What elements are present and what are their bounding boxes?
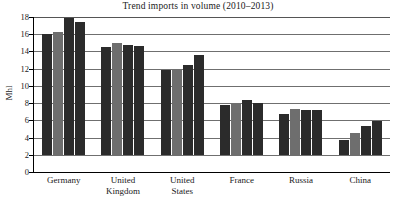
bar: [242, 100, 252, 155]
y-tick-label: 12: [21, 64, 30, 73]
bar: [172, 69, 182, 155]
bar: [161, 70, 171, 155]
bar-group: [34, 0, 93, 155]
x-axis-label: France: [212, 175, 271, 186]
bar: [53, 32, 63, 155]
x-axis-label: Germany: [34, 175, 93, 186]
bar: [101, 47, 111, 156]
bar: [372, 121, 382, 155]
y-tick-label: 10: [21, 82, 30, 91]
x-axis-label: Russia: [271, 175, 330, 186]
y-tick-label: 18: [21, 13, 30, 22]
x-axis-line: [33, 172, 390, 173]
bar-group: [271, 0, 330, 155]
bar: [183, 65, 193, 155]
x-axis-label: UnitedStates: [153, 175, 212, 197]
y-axis-ticks: 024681012141618: [0, 0, 33, 173]
bar: [134, 46, 144, 155]
bar: [361, 126, 371, 155]
y-tick-label: 14: [21, 47, 30, 56]
bar-groups: [34, 0, 390, 155]
y-tick-label: 16: [21, 30, 30, 39]
bar: [42, 34, 52, 155]
bar: [231, 104, 241, 155]
bar: [123, 45, 133, 155]
x-axis-labels: GermanyUnitedKingdomUnitedStatesFranceRu…: [34, 175, 390, 207]
bar: [194, 55, 204, 155]
bar: [350, 133, 360, 155]
x-axis-label: China: [331, 175, 390, 186]
bar-group: [331, 0, 390, 155]
bar: [279, 114, 289, 155]
bar: [339, 140, 349, 156]
bar: [253, 103, 263, 155]
x-axis-label: UnitedKingdom: [93, 175, 152, 197]
bar: [112, 43, 122, 155]
bar-group: [212, 0, 271, 155]
chart-figure: Trend imports in volume (2010–2013) Mhl …: [0, 0, 396, 208]
bar-group: [93, 0, 152, 155]
bar: [301, 110, 311, 155]
bar: [290, 109, 300, 156]
bar: [75, 22, 85, 155]
bar: [220, 105, 230, 155]
bar: [312, 110, 322, 155]
bar: [64, 18, 74, 155]
bar-group: [153, 0, 212, 155]
